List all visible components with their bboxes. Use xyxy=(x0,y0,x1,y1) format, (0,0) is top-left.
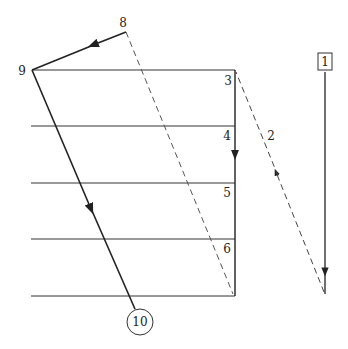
label-9: 9 xyxy=(18,64,26,78)
label-10: 10 xyxy=(132,315,147,329)
ray-diagram: 1 10 8 9 3 4 2 5 6 xyxy=(0,0,348,349)
label-6: 6 xyxy=(223,242,231,256)
dashed-ray-8 xyxy=(126,32,233,294)
ray-8-to-9 xyxy=(32,32,126,70)
label-8: 8 xyxy=(119,16,127,30)
ray-9-to-10 xyxy=(32,70,135,309)
layer-lines xyxy=(31,70,235,296)
label-2: 2 xyxy=(267,129,275,143)
dashed-ray-2 xyxy=(236,72,324,292)
label-5: 5 xyxy=(223,186,231,200)
label-3: 3 xyxy=(224,74,232,88)
label-1: 1 xyxy=(321,55,329,69)
label-4: 4 xyxy=(223,129,231,143)
